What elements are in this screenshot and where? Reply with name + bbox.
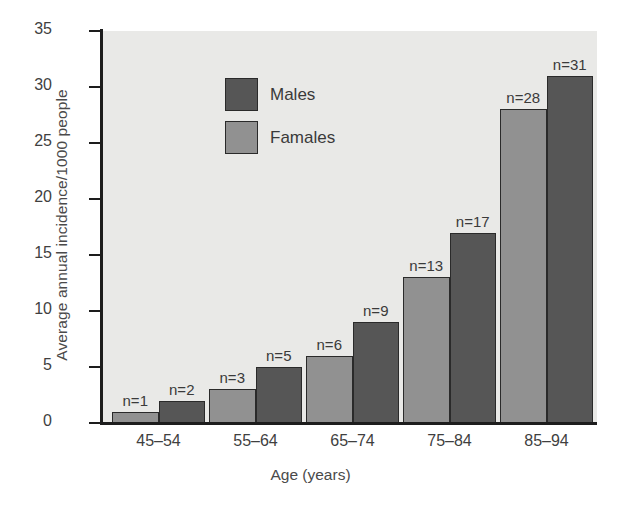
y-tick-mark <box>89 198 100 200</box>
y-tick-label: 15 <box>18 244 52 262</box>
bar-famales-55–64 <box>209 389 256 423</box>
legend-label-females: Famales <box>270 128 335 148</box>
y-tick-label: 5 <box>18 356 52 374</box>
bar-males-45–54 <box>159 401 206 423</box>
bar-famales-85–94 <box>500 109 547 423</box>
x-category-label: 85–94 <box>524 432 569 450</box>
x-category-label: 65–74 <box>330 432 375 450</box>
bar-value-label: n=9 <box>363 302 388 319</box>
bar-males-55–64 <box>256 367 303 423</box>
x-axis-line <box>100 422 597 425</box>
bar-chart-figure: Average annual incidence/1000 people 051… <box>0 0 621 518</box>
y-tick-mark <box>89 30 100 32</box>
y-tick-mark <box>89 254 100 256</box>
bar-value-label: n=17 <box>456 213 490 230</box>
bar-males-65–74 <box>353 322 400 423</box>
y-tick-label: 35 <box>18 20 52 38</box>
y-tick-label: 20 <box>18 188 52 206</box>
y-tick-mark <box>89 310 100 312</box>
y-tick-label: 30 <box>18 76 52 94</box>
bar-value-label: n=31 <box>553 56 587 73</box>
legend-swatch-males-icon <box>225 78 258 111</box>
legend-entry-females: Famales <box>225 116 335 159</box>
bar-famales-65–74 <box>306 356 353 423</box>
plot-area: n=1n=2n=3n=5n=6n=9n=13n=17n=28n=31 Males… <box>103 31 597 423</box>
bar-famales-75–84 <box>403 277 450 423</box>
y-tick-mark <box>89 142 100 144</box>
bar-value-label: n=5 <box>266 347 291 364</box>
chart-legend: Males Famales <box>225 73 335 159</box>
bar-value-label: n=2 <box>169 381 194 398</box>
legend-entry-males: Males <box>225 73 335 116</box>
y-axis-ticks: 05101520253035 <box>0 0 100 518</box>
legend-label-males: Males <box>270 85 315 105</box>
bar-value-label: n=28 <box>506 89 540 106</box>
bar-value-label: n=6 <box>317 336 342 353</box>
bar-value-label: n=1 <box>123 392 148 409</box>
legend-swatch-females-icon <box>225 121 258 154</box>
y-tick-mark <box>89 86 100 88</box>
y-tick-label: 0 <box>18 412 52 430</box>
y-tick-label: 25 <box>18 132 52 150</box>
bar-value-label: n=3 <box>220 369 245 386</box>
x-category-label: 55–64 <box>233 432 278 450</box>
y-tick-label: 10 <box>18 300 52 318</box>
bar-males-85–94 <box>547 76 594 423</box>
bar-value-label: n=13 <box>409 257 443 274</box>
x-category-label: 45–54 <box>136 432 181 450</box>
bar-males-75–84 <box>450 233 497 423</box>
x-axis-title: Age (years) <box>0 466 621 484</box>
x-category-label: 75–84 <box>427 432 472 450</box>
y-tick-mark <box>89 422 100 424</box>
y-tick-mark <box>89 366 100 368</box>
